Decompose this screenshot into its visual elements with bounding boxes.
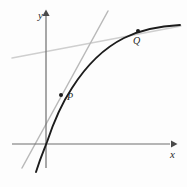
point-marker-p bbox=[59, 93, 63, 97]
point-label-q: Q bbox=[133, 36, 140, 46]
x-axis-label: x bbox=[170, 149, 175, 160]
point-marker-q bbox=[136, 29, 140, 33]
y-axis-arrow-icon bbox=[42, 10, 49, 17]
point-label-p: P bbox=[67, 92, 73, 102]
math-figure-canvas: y x P Q bbox=[0, 0, 187, 187]
y-axis-label: y bbox=[38, 10, 43, 21]
logarithmic-curve bbox=[36, 25, 180, 172]
figure-svg bbox=[0, 0, 187, 187]
x-axis-arrow-icon bbox=[171, 140, 178, 147]
